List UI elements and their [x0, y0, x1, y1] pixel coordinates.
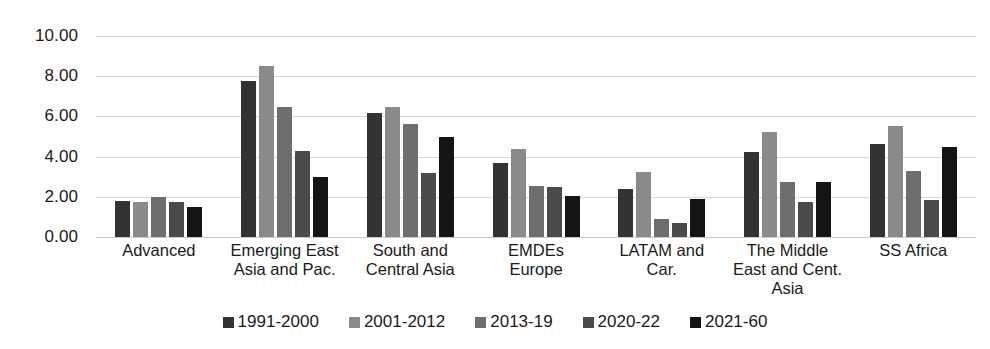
x-axis-category-label: Advanced	[96, 241, 222, 298]
legend-item[interactable]: 2020-22	[583, 312, 660, 332]
bar[interactable]	[313, 177, 328, 237]
bar[interactable]	[636, 172, 651, 237]
x-axis-category-label: The Middle East and Cent. Asia	[725, 241, 851, 298]
bar[interactable]	[187, 207, 202, 237]
bar[interactable]	[870, 144, 885, 237]
bar[interactable]	[618, 189, 633, 237]
bar[interactable]	[942, 147, 957, 237]
x-axis-category-label: SS Africa	[850, 241, 976, 298]
gridline-0.00	[96, 237, 976, 238]
bar-group	[96, 36, 222, 237]
legend-item[interactable]: 2013-19	[475, 312, 552, 332]
bar[interactable]	[906, 171, 921, 237]
bar[interactable]	[493, 163, 508, 237]
y-axis-tick-label: 2.00	[45, 187, 79, 207]
bar-group	[599, 36, 725, 237]
bar[interactable]	[780, 182, 795, 237]
bar[interactable]	[439, 137, 454, 238]
y-axis-tick-label: 6.00	[45, 106, 79, 126]
bar-groups	[96, 36, 976, 237]
legend-swatch-icon	[690, 317, 701, 328]
bar[interactable]	[565, 196, 580, 237]
bar[interactable]	[169, 202, 184, 237]
bar[interactable]	[259, 66, 274, 237]
bar[interactable]	[115, 201, 130, 237]
bar[interactable]	[888, 126, 903, 237]
x-axis-labels: AdvancedEmerging East Asia and Pac.South…	[96, 241, 976, 298]
bar-group	[347, 36, 473, 237]
legend-swatch-icon	[475, 317, 486, 328]
y-axis-tick-label: 4.00	[45, 147, 79, 167]
legend-swatch-icon	[223, 317, 234, 328]
legend-swatch-icon	[583, 317, 594, 328]
x-axis-category-label: EMDEs Europe	[473, 241, 599, 298]
bar[interactable]	[367, 113, 382, 237]
bar[interactable]	[511, 149, 526, 237]
x-axis-category-label: Emerging East Asia and Pac.	[222, 241, 348, 298]
bar[interactable]	[241, 81, 256, 237]
bar[interactable]	[654, 219, 669, 237]
bar[interactable]	[295, 151, 310, 237]
x-axis-category-label: South and Central Asia	[347, 241, 473, 298]
y-axis-tick-label: 10.00	[35, 26, 78, 46]
legend-label: 1991-2000	[238, 312, 319, 332]
legend-item[interactable]: 1991-2000	[223, 312, 319, 332]
bar[interactable]	[672, 223, 687, 237]
bar[interactable]	[762, 132, 777, 237]
bar[interactable]	[151, 197, 166, 237]
legend-label: 2020-22	[598, 312, 660, 332]
legend-item[interactable]: 2021-60	[690, 312, 767, 332]
bar-group	[473, 36, 599, 237]
bar[interactable]	[816, 182, 831, 237]
legend-label: 2013-19	[490, 312, 552, 332]
bar-group	[850, 36, 976, 237]
bar[interactable]	[547, 187, 562, 237]
bar-chart: 10.008.006.004.002.000.00 AdvancedEmergi…	[0, 0, 990, 349]
legend-swatch-icon	[349, 317, 360, 328]
bar[interactable]	[421, 173, 436, 237]
chart-legend: 1991-20002001-20122013-192020-222021-60	[0, 312, 990, 332]
bar[interactable]	[277, 107, 292, 237]
bar[interactable]	[690, 199, 705, 237]
bar[interactable]	[798, 202, 813, 237]
legend-label: 2001-2012	[364, 312, 445, 332]
x-axis-category-label: LATAM and Car.	[599, 241, 725, 298]
bar[interactable]	[744, 152, 759, 237]
y-axis-tick-label: 0.00	[45, 227, 79, 247]
legend-item[interactable]: 2001-2012	[349, 312, 445, 332]
bar[interactable]	[403, 124, 418, 237]
legend-label: 2021-60	[705, 312, 767, 332]
bar[interactable]	[924, 200, 939, 237]
bar[interactable]	[133, 202, 148, 237]
bar[interactable]	[385, 107, 400, 237]
y-axis: 10.008.006.004.002.000.00	[0, 36, 86, 237]
bar-group	[725, 36, 851, 237]
bar-group	[222, 36, 348, 237]
bar[interactable]	[529, 186, 544, 237]
y-axis-tick-label: 8.00	[45, 66, 79, 86]
